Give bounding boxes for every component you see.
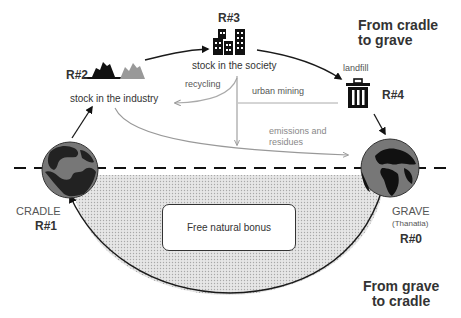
from-cradle-to-grave-title: From cradle to grave (358, 18, 438, 49)
industry-id: R#2 (66, 69, 88, 83)
urban-mining-label: urban mining (252, 86, 304, 96)
cradle-globe-icon (42, 142, 98, 198)
free-natural-bonus-box: Free natural bonus (162, 204, 296, 251)
cradle-to-industry-arrow (72, 107, 92, 138)
grave-label: GRAVE (392, 205, 430, 218)
society-label: stock in the society (192, 60, 276, 72)
from-grave-to-cradle-title: From grave to cradle (363, 279, 439, 310)
emissions-label-line2: residues (269, 137, 303, 147)
grave-globe-icon (361, 139, 419, 197)
landfill-label: landfill (343, 63, 369, 73)
society-id: R#3 (218, 12, 240, 26)
mountains-icon (84, 62, 145, 79)
cradle-label: CRADLE (16, 205, 61, 218)
landfill-to-grave-arrow (374, 114, 385, 134)
grave-id: R#0 (400, 233, 422, 247)
industry-to-society-arrow (145, 49, 208, 60)
free-natural-bonus-label: Free natural bonus (187, 222, 271, 233)
trash-can-icon (346, 79, 370, 108)
grave-sublabel: (Thanatia) (392, 219, 428, 228)
cradle-id: R#1 (35, 220, 57, 234)
emissions-label-line1: emissions and (269, 126, 327, 136)
recycling-label: recycling (185, 79, 221, 89)
landfill-id: R#4 (382, 89, 404, 103)
buildings-icon (213, 29, 245, 55)
industry-label: stock in the industry (70, 93, 158, 105)
